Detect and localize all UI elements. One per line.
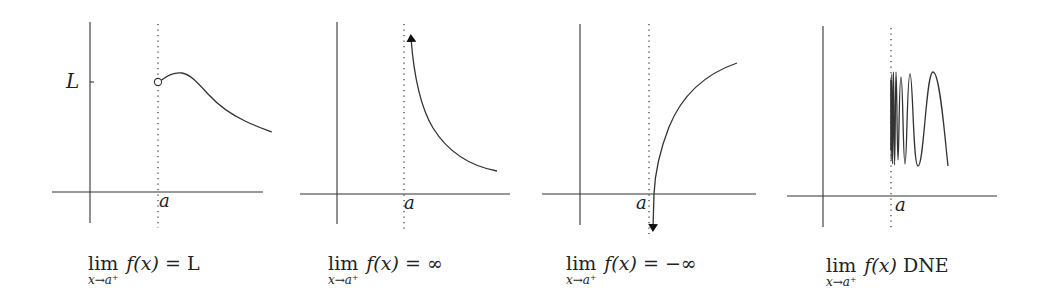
caption-limit-equals-L: lim x→a⁺ f(x) = L [88,253,200,287]
panel-limit-equals-neg-infinity: a [542,24,756,234]
function-expression: f(x) [864,254,897,276]
function-curve-arrow-down [653,63,737,228]
caption-limit-dne: lim x→a⁺ f(x) DNE [826,255,949,289]
caption-limit-equals-neg-infinity: lim x→a⁺ f(x) = −∞ [566,253,697,287]
function-expression: f(x) [126,252,159,274]
oscillating-function-curve [891,72,948,166]
lim-word: lim [88,253,118,273]
lim-subscript: x→a⁺ [826,275,856,289]
limit-value: DNE [903,254,949,276]
x-label-a: a [404,192,415,213]
x-label-a: a [895,194,906,215]
x-label-a: a [159,190,170,211]
panel-limit-equals-L: L a [52,22,272,228]
function-curve [162,73,273,132]
lim-subscript: x→a⁺ [88,273,118,287]
lim-word: lim [826,255,856,275]
lim-subscript: x→a⁺ [566,273,596,287]
panel-limit-equals-infinity: a [300,22,510,229]
x-label-a: a [636,192,647,213]
panel-limit-dne: a [787,26,997,230]
function-expression: f(x) [604,252,637,274]
function-expression: f(x) [366,252,399,274]
lim-subscript: x→a⁺ [328,273,358,287]
function-curve-arrow-up [411,38,497,171]
limit-value: = −∞ [643,252,697,274]
caption-limit-equals-infinity: lim x→a⁺ f(x) = ∞ [328,253,443,287]
limit-value: = L [165,252,200,274]
lim-word: lim [566,253,596,273]
lim-word: lim [328,253,358,273]
open-circle-marker [154,78,161,85]
limit-value: = ∞ [405,252,443,274]
y-label-L: L [65,69,79,93]
